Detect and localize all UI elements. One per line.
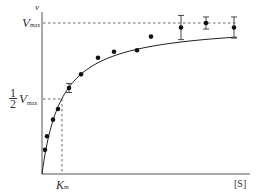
axes: [42, 12, 250, 174]
data-point: [232, 25, 237, 30]
half-vmax-label: 1 2 Vmax: [9, 88, 37, 109]
data-point: [79, 72, 84, 77]
x-axis-label: [S]: [234, 178, 246, 189]
half-denominator: 2: [9, 99, 17, 109]
error-bars: [66, 15, 237, 92]
data-point: [135, 48, 140, 53]
data-point: [51, 117, 56, 122]
vmax-subscript: max: [30, 22, 40, 28]
data-points: [43, 21, 237, 152]
data-point: [67, 86, 72, 91]
data-point: [149, 34, 154, 39]
reference-lines: [43, 23, 238, 174]
km-subscript: m: [64, 184, 69, 190]
data-point: [179, 25, 184, 30]
half-vmax-v: V: [19, 91, 27, 106]
data-point: [96, 55, 101, 60]
km-label: Km: [56, 178, 69, 193]
half-vmax-subscript: max: [27, 100, 37, 106]
vmax-v: V: [22, 15, 30, 30]
data-point: [204, 21, 209, 26]
data-point: [45, 134, 50, 139]
data-point: [56, 107, 61, 112]
vmax-label: Vmax: [22, 15, 40, 31]
data-point: [112, 49, 117, 54]
fit-curve: [42, 37, 237, 174]
km-k: K: [56, 178, 64, 192]
data-point: [43, 148, 48, 153]
y-axis-label: v: [35, 2, 39, 12]
